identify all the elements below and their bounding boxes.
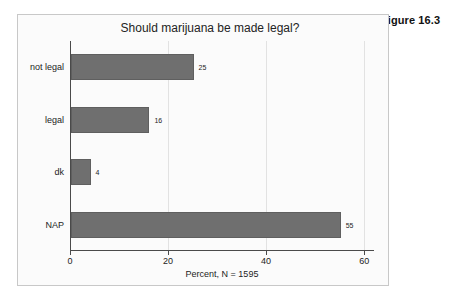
bar[interactable]: [71, 212, 341, 238]
x-axis-tick: [70, 251, 71, 255]
bar-row: dk4: [70, 159, 374, 185]
category-label: dk: [54, 167, 64, 177]
bar-value-label: 25: [199, 64, 207, 71]
x-axis-tick: [168, 251, 169, 255]
category-label: not legal: [30, 62, 64, 72]
bar-value-label: 55: [346, 221, 354, 228]
plot-area: not legal25legal16dk4NAP55 0204060 Perce…: [70, 41, 374, 251]
x-axis-tick-label: 20: [163, 256, 173, 266]
chart-title: Should marijuana be made legal?: [24, 21, 396, 35]
bar-value-label: 4: [96, 169, 100, 176]
bar[interactable]: [71, 159, 91, 185]
x-axis-tick: [266, 251, 267, 255]
category-label: NAP: [45, 220, 64, 230]
bar-row: not legal25: [70, 54, 374, 80]
x-axis-tick-label: 40: [261, 256, 271, 266]
x-axis-title: Percent, N = 1595: [70, 269, 374, 279]
x-axis-tick-label: 60: [359, 256, 369, 266]
bar-row: legal16: [70, 107, 374, 133]
bar-chart: Should marijuana be made legal? not lega…: [18, 15, 390, 287]
x-axis-tick-label: 0: [67, 256, 72, 266]
bar[interactable]: [71, 107, 149, 133]
category-label: legal: [45, 115, 64, 125]
bar-value-label: 16: [154, 116, 162, 123]
bar[interactable]: [71, 54, 194, 80]
bar-row: NAP55: [70, 212, 374, 238]
figure-frame: Should marijuana be made legal? not lega…: [17, 14, 389, 286]
x-axis-tick: [364, 251, 365, 255]
x-axis-line: [70, 250, 374, 251]
